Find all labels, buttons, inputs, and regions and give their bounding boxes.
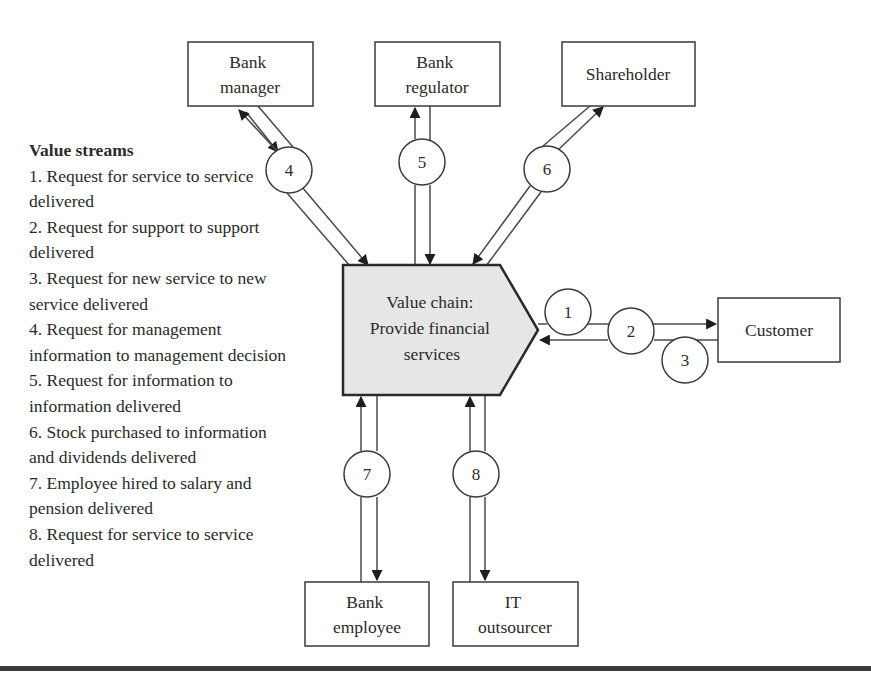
legend-item-2: 2. Request for support to support delive… [29, 215, 291, 266]
bottom-divider [0, 666, 871, 671]
legend-item-7: 7. Employee hired to salary and pension … [29, 471, 291, 522]
legend-item-1: 1. Request for service to service delive… [29, 164, 291, 215]
stakeholder-customer[interactable]: Customer [718, 298, 840, 362]
stream-badge-5[interactable]: 5 [399, 139, 445, 185]
stream-badge-3[interactable]: 3 [662, 337, 708, 383]
legend-item-8: 8. Request for service to service delive… [29, 522, 291, 573]
stakeholder-shareholder[interactable]: Shareholder [562, 42, 695, 106]
stream-badge-6[interactable]: 6 [524, 146, 570, 192]
stakeholder-it-outsourcer[interactable]: IT outsourcer [453, 582, 578, 646]
svg-text:2: 2 [627, 322, 636, 341]
stakeholder-bank-regulator[interactable]: Bank regulator [375, 42, 500, 106]
shareholder-label: Shareholder [586, 64, 671, 84]
svg-text:7: 7 [363, 465, 372, 484]
svg-text:6: 6 [543, 160, 552, 179]
svg-text:3: 3 [681, 351, 690, 370]
legend-item-3: 3. Request for new service to new servic… [29, 266, 291, 317]
customer-label: Customer [745, 320, 813, 340]
svg-text:8: 8 [472, 465, 481, 484]
legend-item-5: 5. Request for information to informatio… [29, 368, 291, 419]
svg-text:5: 5 [418, 153, 427, 172]
svg-text:1: 1 [564, 303, 573, 322]
legend-title: Value streams [29, 138, 291, 164]
legend-item-4: 4. Request for management information to… [29, 317, 291, 368]
stream-badge-1[interactable]: 1 [545, 289, 591, 335]
value-chain-node[interactable]: Value chain: Provide financial services [343, 265, 538, 395]
value-streams-legend: Value streams 1. Request for service to … [29, 138, 291, 573]
legend-item-6: 6. Stock purchased to information and di… [29, 420, 291, 471]
stream-badge-8[interactable]: 8 [453, 451, 499, 497]
stream-badge-2[interactable]: 2 [608, 308, 654, 354]
stream-badge-7[interactable]: 7 [344, 451, 390, 497]
stakeholder-bank-employee[interactable]: Bank employee [305, 582, 429, 646]
stakeholder-bank-manager[interactable]: Bank manager [188, 42, 313, 106]
